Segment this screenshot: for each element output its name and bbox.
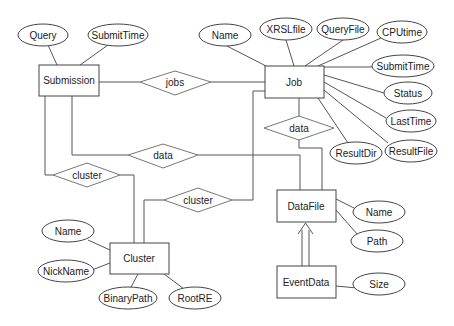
attr-job-queryfile[interactable]: QueryFile [317, 18, 369, 40]
relationship-data-job-label: data [289, 123, 309, 134]
attr-label: Query [29, 30, 56, 41]
attr-job-resultdir[interactable]: ResultDir [330, 142, 382, 164]
attr-cluster-nickname[interactable]: NickName [38, 260, 94, 282]
attr-label: XRSLfile [267, 24, 306, 35]
relationship-cluster-submission[interactable]: cluster [53, 163, 120, 187]
attr-label: LastTime [391, 116, 432, 127]
entity-job-label: Job [286, 77, 303, 88]
attr-eventdata-size[interactable]: Size [353, 273, 405, 295]
entity-eventdata[interactable]: EventData [277, 266, 336, 298]
entity-eventdata-label: EventData [283, 277, 330, 288]
entity-submission-label: Submission [43, 75, 95, 86]
er-diagram-svg: Submission Job Cluster DataFile EventDat… [0, 0, 454, 326]
attr-label: Name [366, 207, 393, 218]
attr-label: SubmitTime [377, 61, 430, 72]
attr-datafile-name[interactable]: Name [353, 201, 405, 223]
er-diagram: Submission Job Cluster DataFile EventDat… [0, 0, 454, 326]
entity-job[interactable]: Job [265, 66, 324, 98]
attr-label: Size [369, 279, 389, 290]
attr-cluster-binarypath[interactable]: BinaryPath [99, 287, 157, 309]
attr-label: SubmitTime [92, 30, 145, 41]
attr-submission-query[interactable]: Query [18, 24, 68, 46]
attr-label: QueryFile [321, 24, 365, 35]
relationship-data-submission-datafile[interactable]: data [128, 144, 198, 168]
attr-label: NickName [43, 266, 90, 277]
attr-label: Name [55, 226, 82, 237]
attr-label: ResultDir [335, 148, 377, 159]
entity-datafile[interactable]: DataFile [277, 190, 336, 222]
attr-label: Name [212, 30, 239, 41]
attr-job-status[interactable]: Status [384, 82, 432, 104]
attr-label: CPUtime [382, 27, 422, 38]
attr-job-cputime[interactable]: CPUtime [377, 21, 427, 43]
attr-cluster-rootre[interactable]: RootRE [169, 287, 221, 309]
attr-label: ResultFile [389, 146, 434, 157]
attr-cluster-name[interactable]: Name [42, 220, 94, 242]
relationship-jobs[interactable]: jobs [140, 71, 211, 95]
attr-job-xrslfile[interactable]: XRSLfile [260, 18, 312, 40]
entity-datafile-label: DataFile [287, 201, 325, 212]
attr-label: RootRE [177, 293, 212, 304]
relationship-jobs-label: jobs [165, 77, 184, 88]
attr-job-resultfile[interactable]: ResultFile [385, 140, 437, 162]
attr-label: Status [394, 88, 422, 99]
attr-job-name[interactable]: Name [199, 24, 251, 46]
attr-label: BinaryPath [104, 293, 153, 304]
relationship-cluster-job-label: cluster [183, 195, 213, 206]
relationship-cluster-job[interactable]: cluster [164, 188, 232, 212]
attr-datafile-path[interactable]: Path [351, 230, 403, 252]
relationship-cluster-submission-label: cluster [72, 170, 102, 181]
relationship-data-submission-label: data [153, 150, 173, 161]
attr-job-submittime[interactable]: SubmitTime [372, 55, 434, 77]
attr-label: Path [367, 236, 388, 247]
entity-submission[interactable]: Submission [39, 65, 99, 96]
attr-submission-submittime[interactable]: SubmitTime [88, 24, 148, 46]
relationship-data-job-datafile[interactable]: data [264, 116, 334, 140]
entity-cluster-label: Cluster [123, 253, 155, 264]
entity-cluster[interactable]: Cluster [110, 243, 169, 274]
attr-job-lasttime[interactable]: LastTime [386, 110, 436, 132]
